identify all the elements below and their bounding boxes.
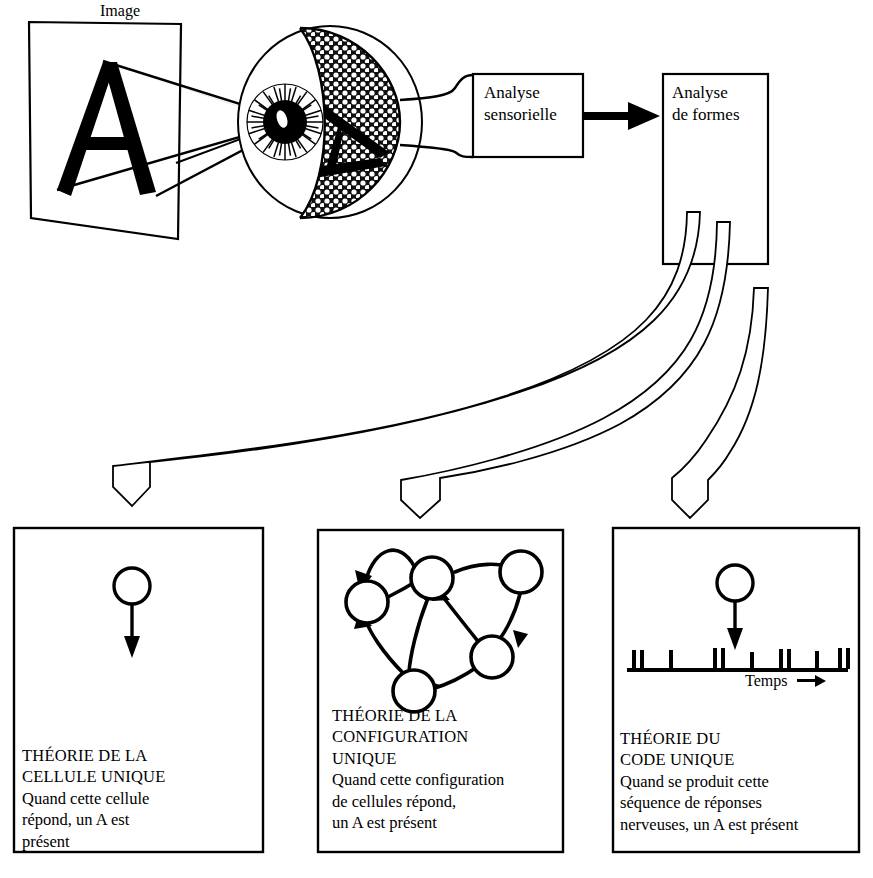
theory-title-line: THÉORIE DE LA	[22, 745, 174, 766]
theory-body-line: nerveuses, un A est présent	[620, 814, 860, 835]
lens-iris	[247, 84, 323, 160]
theory-title-line: CELLULE UNIQUE	[22, 766, 174, 787]
analyse-sensorielle-line2: sensorielle	[484, 104, 578, 126]
theory-text-configuration-unique: THÉORIE DE LA CONFIGURATION UNIQUE Quand…	[332, 705, 512, 834]
theory-title-line: THÉORIE DU	[620, 728, 860, 749]
analyse-de-formes-line2: de formes	[672, 104, 780, 126]
theory-title-line: THÉORIE DE LA	[332, 705, 512, 726]
theory-text-code-unique: THÉORIE DU CODE UNIQUE Quand se produit …	[620, 728, 860, 835]
theory-title-line: CODE UNIQUE	[620, 749, 860, 770]
analyse-sensorielle-label: Analyse sensorielle	[484, 82, 578, 126]
analyse-de-formes-line1: Analyse	[672, 82, 780, 104]
eye-cross-section	[238, 26, 422, 218]
temps-axis-label: Temps	[745, 672, 787, 690]
theory-body-line: Quand cette configuration	[332, 769, 512, 790]
theory-title-line: UNIQUE	[332, 748, 512, 769]
curved-arrow-to-cellule-unique	[113, 212, 700, 506]
curved-arrow-to-code-unique	[672, 288, 768, 518]
theory-body-line: Quand se produit cette	[620, 771, 860, 792]
theory-body-line: répond, un A est présent	[22, 809, 174, 852]
analyse-sensorielle-line1: Analyse	[484, 82, 578, 104]
theory-body-line: séquence de réponses	[620, 792, 860, 813]
arrow-sensorielle-to-formes	[583, 102, 660, 130]
theory-body-line: de cellules répond,	[332, 791, 512, 812]
theory-body-line: Quand cette cellule	[22, 788, 174, 809]
diagram-canvas: Image Analyse sensorielle Analyse de for…	[0, 0, 873, 878]
theory-text-cellule-unique: THÉORIE DE LA CELLULE UNIQUE Quand cette…	[22, 745, 174, 852]
analyse-de-formes-label: Analyse de formes	[672, 82, 780, 126]
image-label: Image	[70, 2, 170, 20]
theory-title-line: CONFIGURATION	[332, 726, 512, 747]
theory-body-line: un A est présent	[332, 812, 512, 833]
image-plane	[29, 22, 181, 239]
